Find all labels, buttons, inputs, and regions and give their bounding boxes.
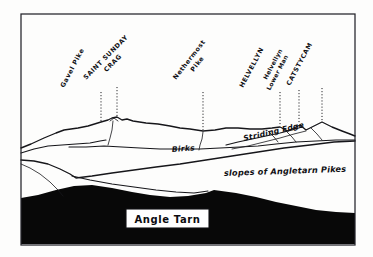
ridge-label-birks-text: Birks xyxy=(172,143,196,154)
angle-tarn-label-box: Angle Tarn xyxy=(126,209,209,228)
ridge-label-birks: Birks xyxy=(172,143,196,154)
angle-tarn-label-text: Angle Tarn xyxy=(134,214,200,225)
panorama-canvas: Gavel Pike SAINT SUNDAY CRAG Nethermost … xyxy=(0,0,373,257)
panorama-sketch-figure: Gavel Pike SAINT SUNDAY CRAG Nethermost … xyxy=(0,0,373,257)
